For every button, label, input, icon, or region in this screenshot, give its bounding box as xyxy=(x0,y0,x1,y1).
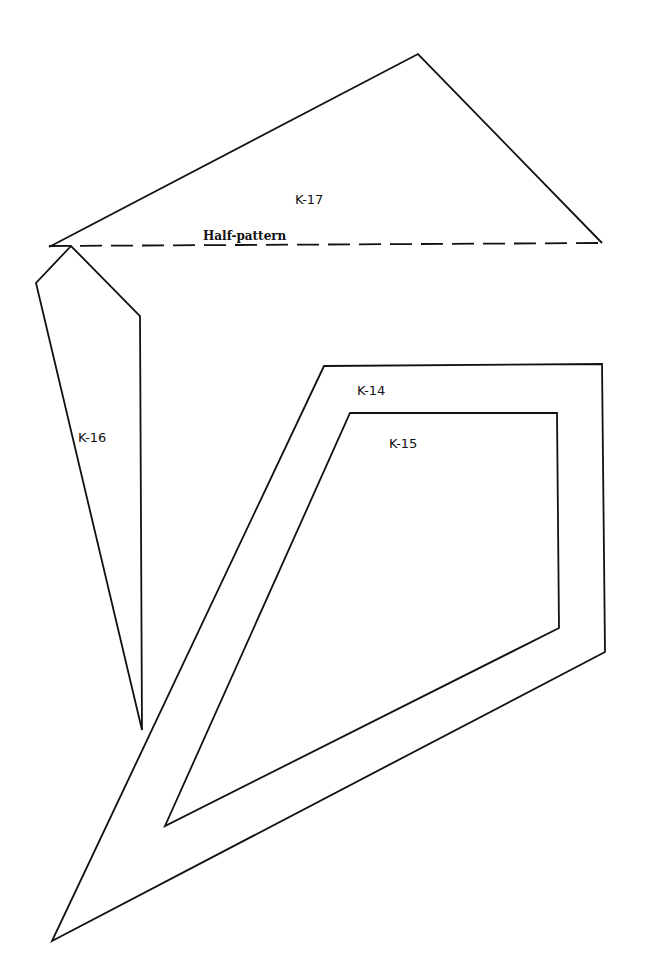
k15-label: K-15 xyxy=(389,436,417,451)
half-pattern-fold-line xyxy=(49,243,602,246)
k16-outline xyxy=(36,246,142,730)
pattern-diagram: K-17 Half-pattern K-16 K-14 K-15 xyxy=(0,0,648,976)
half-pattern-label: Half-pattern xyxy=(203,229,287,243)
piece-k17: K-17 Half-pattern xyxy=(49,54,602,247)
k14-outline xyxy=(52,364,605,941)
k17-label: K-17 xyxy=(295,192,323,207)
k14-label: K-14 xyxy=(357,383,385,398)
k17-outline xyxy=(49,54,602,247)
piece-k15: K-15 xyxy=(165,413,559,826)
piece-k16: K-16 xyxy=(36,246,142,730)
k16-label: K-16 xyxy=(78,430,106,445)
piece-k14: K-14 xyxy=(52,364,605,941)
k15-outline xyxy=(165,413,559,826)
